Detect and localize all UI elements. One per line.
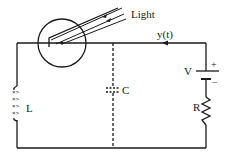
resistor-label: R — [193, 102, 200, 113]
voltage-label: V — [184, 66, 192, 77]
minus-label: − — [212, 77, 218, 88]
svg-text:×>: ×> — [12, 89, 20, 95]
circuit-diagram: ×> ×> ×> ×> Light y(t) V + − R L C — [0, 0, 233, 154]
anode-dot — [60, 41, 63, 44]
svg-text:×>: ×> — [12, 96, 20, 102]
inductor-label: L — [26, 103, 33, 114]
circuit-drawing: ×> ×> ×> ×> — [0, 0, 233, 154]
capacitor-label: C — [122, 85, 129, 96]
inductor-marks: ×> ×> ×> ×> — [12, 89, 20, 116]
capacitor-plates — [106, 88, 120, 92]
plus-label: + — [211, 59, 217, 70]
light-label: Light — [131, 9, 155, 20]
resistor-zigzag — [202, 97, 210, 125]
light-rays — [51, 8, 126, 44]
svg-text:×>: ×> — [12, 103, 20, 109]
photocathode — [49, 8, 118, 47]
current-arrow-icon — [162, 41, 168, 46]
svg-text:×>: ×> — [12, 110, 20, 116]
current-label: y(t) — [157, 29, 173, 40]
